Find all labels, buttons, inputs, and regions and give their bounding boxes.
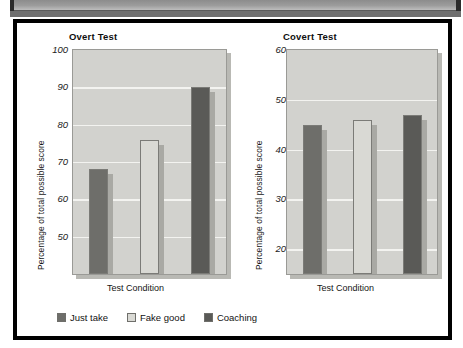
chart-title-covert: Covert Test: [283, 31, 337, 42]
chart-title-overt: Overt Test: [69, 31, 117, 42]
scan-edge-artifact: [0, 0, 463, 18]
bar: [140, 140, 159, 274]
scan-edge-shadow: [10, 11, 461, 17]
y-tick-label: 50: [57, 230, 68, 241]
legend-item: Just take: [57, 312, 108, 323]
bar: [191, 87, 210, 274]
legend-swatch-icon: [204, 313, 213, 322]
gridline: [287, 100, 437, 101]
y-axis-ticks-overt: 5060708090100: [42, 47, 68, 279]
legend-label: Coaching: [217, 312, 257, 323]
plot-area-overt: [72, 49, 227, 275]
y-tick-label: 30: [275, 193, 286, 204]
y-tick-label: 20: [275, 243, 286, 254]
bar: [303, 125, 322, 274]
x-axis-title-overt: Test Condition: [107, 283, 164, 293]
y-tick-label: 40: [275, 143, 286, 154]
chart-panel-covert: Covert Test Percentage of total possible…: [245, 23, 445, 303]
legend-label: Just take: [70, 312, 108, 323]
y-tick-label: 60: [57, 193, 68, 204]
plot-area-covert: [286, 49, 438, 275]
legend-item: Coaching: [204, 312, 257, 323]
legend-swatch-icon: [57, 313, 66, 322]
y-tick-label: 100: [52, 44, 68, 55]
legend-label: Fake good: [140, 312, 185, 323]
figure-frame: Overt Test Percentage of total possible …: [13, 19, 452, 340]
x-axis-title-covert: Test Condition: [317, 283, 374, 293]
y-tick-label: 90: [57, 81, 68, 92]
y-tick-label: 60: [275, 44, 286, 55]
chart-legend: Just takeFake goodCoaching: [57, 309, 257, 325]
scan-gray-bar: [14, 0, 458, 11]
y-tick-label: 70: [57, 156, 68, 167]
y-tick-label: 80: [57, 118, 68, 129]
bar: [353, 120, 372, 274]
y-axis-ticks-covert: 2030405060: [260, 47, 286, 279]
legend-swatch-icon: [127, 313, 136, 322]
figure-inner: Overt Test Percentage of total possible …: [17, 23, 448, 336]
chart-panel-overt: Overt Test Percentage of total possible …: [23, 23, 241, 303]
legend-item: Fake good: [127, 312, 185, 323]
bar: [403, 115, 422, 274]
y-tick-label: 50: [275, 93, 286, 104]
bar: [89, 169, 108, 274]
